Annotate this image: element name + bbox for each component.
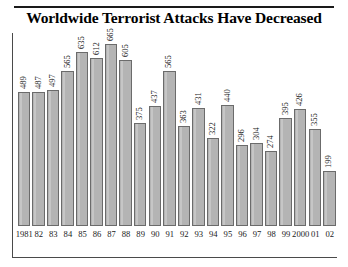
bar-highlight — [63, 72, 65, 225]
bar-slot: 322 — [206, 34, 221, 226]
x-tick-label: 84 — [61, 229, 76, 239]
bar-value-label: 605 — [119, 44, 129, 57]
bar-value-label: 274 — [265, 135, 275, 148]
bar-slot: 635 — [75, 34, 90, 226]
bar-highlight — [78, 53, 80, 225]
bar-highlight — [267, 152, 269, 225]
bar-slot: 665 — [104, 34, 119, 226]
bar — [119, 60, 132, 226]
bar — [47, 90, 60, 226]
bar-slot: 375 — [133, 34, 148, 226]
bar-highlight — [20, 93, 22, 225]
bar-highlight — [281, 119, 283, 225]
bar — [149, 106, 162, 226]
bar-value-label: 489 — [18, 76, 28, 89]
bar-value-label: 322 — [207, 122, 217, 135]
bar-value-label: 612 — [90, 42, 100, 55]
bar-slot: 274 — [264, 34, 279, 226]
x-tick-label: 98 — [264, 229, 279, 239]
bar-value-label: 355 — [309, 113, 319, 126]
bar-slot: 487 — [32, 34, 47, 226]
bar-slot: 437 — [148, 34, 163, 226]
x-tick-label: 01 — [308, 229, 323, 239]
bar-highlight — [296, 110, 298, 225]
bar-highlight — [121, 61, 123, 225]
bar-value-label: 304 — [250, 127, 260, 140]
bar-slot: 395 — [279, 34, 294, 226]
x-tick-label: 87 — [104, 229, 119, 239]
bar-highlight — [223, 106, 225, 225]
x-tick-label: 94 — [206, 229, 221, 239]
x-tick-label: 90 — [148, 229, 163, 239]
title-rule — [14, 6, 334, 8]
bar — [76, 52, 89, 226]
bar — [105, 44, 118, 226]
bar — [134, 123, 147, 226]
x-tick-label: 93 — [192, 229, 207, 239]
bar-highlight — [311, 130, 313, 225]
bar-slot: 431 — [192, 34, 207, 226]
bar-slot: 440 — [221, 34, 236, 226]
x-tick-label: 83 — [46, 229, 61, 239]
bar-value-label: 426 — [294, 93, 304, 106]
bar-value-label: 395 — [279, 102, 289, 115]
bar-value-label: 440 — [221, 90, 231, 103]
bar-highlight — [49, 91, 51, 225]
x-tick-label: 89 — [133, 229, 148, 239]
bar-slot: 199 — [322, 34, 337, 226]
bar — [221, 105, 234, 226]
bar-slot: 565 — [162, 34, 177, 226]
bar-series: 4894874975656356126656053754375653634313… — [17, 34, 337, 226]
x-tick-label: 97 — [250, 229, 265, 239]
bar — [309, 129, 322, 226]
bar-value-label: 665 — [105, 28, 115, 41]
bar-value-label: 199 — [323, 156, 333, 169]
bar-value-label: 437 — [149, 90, 159, 103]
bar — [18, 92, 31, 226]
chart-title-block: Worldwide Terrorist Attacks Have Decreas… — [14, 6, 334, 32]
x-tick-label: 95 — [221, 229, 236, 239]
x-tick-label: 85 — [75, 229, 90, 239]
x-tick-label: 02 — [322, 229, 337, 239]
bar — [192, 108, 205, 226]
bar-slot: 605 — [119, 34, 134, 226]
bar — [207, 138, 220, 226]
bar-slot: 565 — [61, 34, 76, 226]
bar — [236, 145, 249, 226]
x-axis-tick-labels: 1981828384858687888990919293949596979899… — [17, 229, 337, 245]
bar-highlight — [180, 127, 182, 225]
bar-value-label: 487 — [32, 77, 42, 90]
bar — [61, 71, 74, 226]
page-title: Worldwide Terrorist Attacks Have Decreas… — [14, 9, 334, 27]
bar-highlight — [252, 144, 254, 225]
bar-slot: 426 — [293, 34, 308, 226]
bar-highlight — [107, 45, 109, 225]
bar — [265, 151, 278, 226]
x-tick-label: 91 — [162, 229, 177, 239]
bar-slot: 497 — [46, 34, 61, 226]
bar-highlight — [136, 124, 138, 225]
bar-value-label: 363 — [178, 111, 188, 124]
bar-slot: 296 — [235, 34, 250, 226]
bar-highlight — [151, 107, 153, 225]
bar — [163, 71, 176, 226]
bar — [294, 109, 307, 226]
chart-figure: Worldwide Terrorist Attacks Have Decreas… — [0, 0, 348, 267]
bar-value-label: 635 — [76, 36, 86, 49]
bar — [323, 171, 336, 226]
bar-highlight — [194, 109, 196, 225]
bar — [279, 118, 292, 226]
x-tick-label: 88 — [119, 229, 134, 239]
bar-value-label: 497 — [47, 74, 57, 87]
bar-slot: 363 — [177, 34, 192, 226]
x-tick-label: 96 — [235, 229, 250, 239]
bar-slot: 489 — [17, 34, 32, 226]
bar — [32, 92, 45, 226]
bar-value-label: 375 — [134, 107, 144, 120]
bar — [90, 58, 103, 226]
bar-value-label: 431 — [192, 92, 202, 105]
bar-slot: 612 — [90, 34, 105, 226]
bar-highlight — [238, 146, 240, 225]
bar-value-label: 565 — [163, 55, 173, 68]
bar-slot: 304 — [250, 34, 265, 226]
